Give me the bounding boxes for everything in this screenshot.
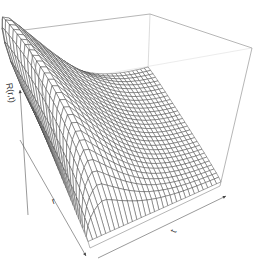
- surface-plot: [0, 0, 264, 272]
- surface-mesh: [2, 17, 221, 241]
